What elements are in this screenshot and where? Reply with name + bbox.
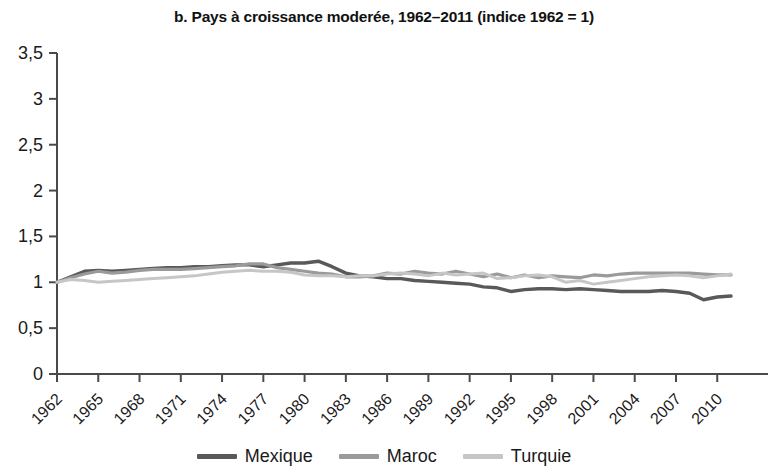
y-axis: 00,511,522,533,5 bbox=[18, 43, 57, 384]
y-tick-label: 2,5 bbox=[18, 135, 43, 155]
x-axis: 1962196519681971197419771980198319861989… bbox=[28, 374, 768, 427]
chart-figure: b. Pays à croissance moderée, 1962–2011 … bbox=[0, 0, 768, 474]
legend-item-mexique[interactable]: Mexique bbox=[197, 446, 313, 467]
x-tick-label: 1995 bbox=[482, 390, 519, 427]
legend-swatch-icon bbox=[339, 454, 379, 459]
x-tick-label: 2010 bbox=[688, 390, 725, 427]
x-tick-label: 2007 bbox=[647, 390, 684, 427]
y-tick-label: 1,5 bbox=[18, 226, 43, 246]
line-chart-plot: 00,511,522,533,5 19621965196819711974197… bbox=[0, 0, 768, 474]
y-tick-label: 3,5 bbox=[18, 43, 43, 63]
y-tick-label: 1 bbox=[33, 272, 43, 292]
x-tick-label: 1974 bbox=[193, 390, 230, 427]
y-tick-label: 3 bbox=[33, 89, 43, 109]
data-series-group bbox=[57, 261, 731, 300]
x-tick-label: 1965 bbox=[69, 390, 106, 427]
legend-swatch-icon bbox=[463, 454, 503, 459]
y-tick-label: 0 bbox=[33, 364, 43, 384]
y-tick-label: 0,5 bbox=[18, 318, 43, 338]
legend-label: Mexique bbox=[245, 446, 313, 467]
legend-swatch-icon bbox=[197, 454, 237, 459]
legend-label: Maroc bbox=[387, 446, 437, 467]
x-tick-label: 1989 bbox=[399, 390, 436, 427]
y-tick-label: 2 bbox=[33, 181, 43, 201]
x-tick-label: 1983 bbox=[317, 390, 354, 427]
legend-label: Turquie bbox=[511, 446, 571, 467]
x-tick-label: 1992 bbox=[441, 390, 478, 427]
x-tick-label: 1986 bbox=[358, 390, 395, 427]
x-tick-label: 2001 bbox=[564, 390, 601, 427]
x-tick-label: 1968 bbox=[110, 390, 147, 427]
x-tick-label: 1962 bbox=[28, 390, 65, 427]
x-tick-label: 1977 bbox=[234, 390, 271, 427]
x-tick-label: 1971 bbox=[152, 390, 189, 427]
chart-legend: MexiqueMarocTurquie bbox=[0, 446, 768, 467]
x-tick-label: 1980 bbox=[276, 390, 313, 427]
x-tick-label: 1998 bbox=[523, 390, 560, 427]
legend-item-turquie[interactable]: Turquie bbox=[463, 446, 571, 467]
x-tick-label: 2004 bbox=[606, 390, 643, 427]
legend-item-maroc[interactable]: Maroc bbox=[339, 446, 437, 467]
